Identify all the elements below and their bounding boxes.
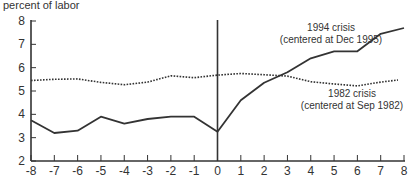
annotation-1994-crisis: (centered at Dec 1995) [280, 34, 382, 45]
x-tick-label: 4 [307, 164, 314, 177]
annotation-1982-crisis: (centered at Sep 1982) [301, 100, 403, 111]
x-tick-label: -3 [142, 164, 153, 177]
x-tick-label: -8 [26, 164, 37, 177]
x-tick-label: 5 [331, 164, 338, 177]
y-tick-label: 3 [18, 131, 25, 145]
x-tick-label: 8 [401, 164, 408, 177]
plot-area: 2345678-8-7-6-5-4-3-2-10123456781994 cri… [0, 0, 410, 177]
annotation-1994-crisis: 1994 crisis [307, 22, 355, 33]
y-tick-label: 5 [18, 84, 25, 98]
annotation-1982-crisis: 1982 crisis [328, 88, 376, 99]
x-tick-label: -2 [166, 164, 177, 177]
series-line-1982-crisis [31, 74, 398, 86]
y-tick-label: 7 [18, 37, 25, 51]
y-tick-label: 2 [18, 154, 25, 168]
x-tick-label: 3 [284, 164, 291, 177]
x-tick-label: 6 [354, 164, 361, 177]
x-tick-label: -6 [72, 164, 83, 177]
x-tick-label: 2 [261, 164, 268, 177]
y-tick-label: 8 [18, 14, 25, 28]
x-tick-label: -4 [119, 164, 130, 177]
y-tick-label: 4 [18, 107, 25, 121]
x-tick-label: 1 [237, 164, 244, 177]
x-tick-label: -5 [96, 164, 107, 177]
x-tick-label: -1 [189, 164, 200, 177]
x-tick-label: -7 [49, 164, 60, 177]
y-axis-label: percent of labor [3, 0, 79, 11]
x-tick-label: 7 [377, 164, 384, 177]
x-tick-label: 0 [214, 164, 221, 177]
y-tick-label: 6 [18, 61, 25, 75]
chart: percent of labor 2345678-8-7-6-5-4-3-2-1… [0, 0, 410, 177]
